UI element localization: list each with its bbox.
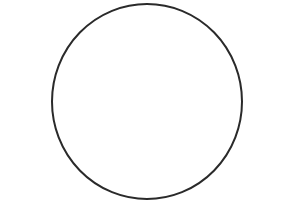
figure-svg	[0, 0, 293, 204]
canvas-background	[0, 0, 293, 204]
drawing-canvas	[0, 0, 293, 204]
